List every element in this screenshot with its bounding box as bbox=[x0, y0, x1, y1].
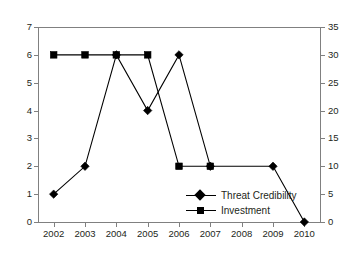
data-point-diamond bbox=[269, 162, 277, 170]
data-point-square bbox=[50, 52, 57, 59]
data-point-square bbox=[207, 163, 214, 170]
data-point-square bbox=[113, 52, 120, 59]
data-point-diamond bbox=[175, 51, 183, 59]
data-point-square bbox=[144, 52, 151, 59]
chart-container: 01234567 05101520253035 2002200320042005… bbox=[0, 0, 364, 254]
data-point-diamond bbox=[143, 106, 151, 114]
legend-item-investment: Investment bbox=[186, 203, 312, 218]
legend-item-threat-credibility: Threat Credibility bbox=[186, 188, 312, 203]
chart-legend: Threat Credibility Investment bbox=[186, 188, 312, 218]
diamond-marker-icon bbox=[186, 189, 216, 202]
square-marker-icon bbox=[186, 204, 216, 217]
series-line-investment bbox=[54, 55, 211, 166]
data-point-diamond bbox=[300, 218, 308, 226]
legend-label: Threat Credibility bbox=[216, 189, 297, 202]
data-point-square bbox=[82, 52, 89, 59]
data-point-square bbox=[176, 163, 183, 170]
legend-label: Investment bbox=[216, 204, 270, 217]
